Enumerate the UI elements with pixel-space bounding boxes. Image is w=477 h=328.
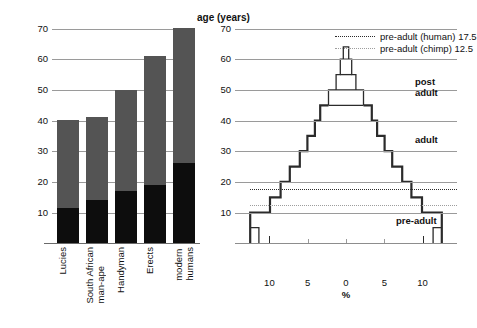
right-panel-title: age (years) — [197, 12, 250, 23]
zone-label-adult: adult — [415, 134, 438, 145]
right-plot-area: 70 60 50 40 30 20 10 — [235, 28, 457, 243]
bar-handyman-preadult-segment — [115, 191, 137, 243]
left-plot-area: 70 60 50 40 30 20 10 — [52, 28, 192, 243]
gridline-60 — [52, 59, 192, 60]
bar-modern-humans — [173, 28, 195, 243]
pyramid-right-thin-outline — [346, 47, 364, 105]
right-ytick-40: 40 — [220, 115, 231, 126]
right-xtick-pos5: 5 — [382, 277, 387, 288]
right-ytick-50: 50 — [220, 84, 231, 95]
legend-label-pre-adult-chimp: pre-adult (chimp) 12.5 — [380, 43, 473, 54]
left-ytick-40: 40 — [37, 115, 48, 126]
xtick-mark-pos10 — [423, 236, 424, 243]
right-ytick-10: 10 — [220, 207, 231, 218]
right-xtick-0: 0 — [343, 277, 348, 288]
left-ytick-60: 60 — [37, 53, 48, 64]
bar-modern-humans-adult-segment — [173, 28, 195, 163]
right-ytick-20: 20 — [220, 176, 231, 187]
left-ytick-20: 20 — [37, 176, 48, 187]
legend: pre-adult (human) 17.5 pre-adult (chimp)… — [335, 30, 477, 54]
reference-line-pre-adult-human — [250, 189, 457, 190]
legend-label-pre-adult-human: pre-adult (human) 17.5 — [380, 31, 477, 42]
xtick-mark-neg10 — [269, 236, 270, 243]
pyramid-right-base-band — [433, 228, 442, 243]
bar-south-african-man-ape-preadult-segment — [86, 200, 108, 243]
rp-gridline-10 — [235, 213, 457, 214]
right-xtick-neg10: 10 — [264, 277, 275, 288]
right-ytick-60: 60 — [220, 53, 231, 64]
zone-label-post-adult-line2: adult — [415, 87, 438, 98]
bar-lucies — [57, 120, 79, 243]
dotted-line-icon — [335, 36, 375, 37]
zone-label-pre-adult: pre-adult — [396, 215, 437, 226]
bar-south-african-man-ape-adult-segment — [86, 117, 108, 200]
right-xaxis-line — [235, 243, 457, 244]
category-label-modern-humans: modern humans — [174, 247, 195, 281]
right-xtick-pos10: 10 — [417, 277, 428, 288]
left-ytick-10: 10 — [37, 207, 48, 218]
pyramid-left-thin-outline — [329, 47, 347, 105]
bar-modern-humans-preadult-segment — [173, 163, 195, 243]
bar-erects — [144, 56, 166, 243]
legend-row-pre-adult-chimp: pre-adult (chimp) 12.5 — [335, 42, 477, 54]
right-panel-age-pyramid: age (years) 70 60 50 40 30 20 10 — [205, 0, 467, 328]
category-label-south-african-man-ape: South African man-ape — [85, 247, 106, 304]
reference-line-pre-adult-chimp — [250, 205, 457, 206]
xtick-mark-0 — [346, 239, 347, 243]
rp-gridline-20 — [235, 182, 457, 183]
right-ytick-70: 70 — [220, 23, 231, 34]
gridline-70 — [52, 29, 192, 30]
left-baseline-axis — [44, 243, 200, 244]
zone-label-post-adult-line1: post — [415, 76, 435, 87]
xtick-mark-pos5 — [384, 239, 385, 243]
bar-handyman — [115, 90, 137, 243]
pyramid-left-thick-outline — [250, 105, 328, 243]
pyramid-left-base-band — [250, 228, 259, 243]
rp-gridline-30 — [235, 151, 457, 152]
bar-erects-adult-segment — [144, 56, 166, 185]
right-xtick-neg5: 5 — [305, 277, 310, 288]
left-ytick-70: 70 — [37, 23, 48, 34]
dotted-line-faint-icon — [335, 48, 375, 49]
bar-handyman-adult-segment — [115, 90, 137, 191]
left-panel-lifespan-bars: 70 60 50 40 30 20 10 — [0, 0, 205, 328]
rp-gridline-60 — [235, 59, 457, 60]
left-ytick-30: 30 — [37, 145, 48, 156]
right-ytick-30: 30 — [220, 145, 231, 156]
xtick-mark-neg5 — [308, 239, 309, 243]
category-label-handyman: Handyman — [116, 247, 127, 293]
bar-lucies-adult-segment — [57, 120, 79, 208]
bar-south-african-man-ape — [86, 117, 108, 243]
bar-erects-preadult-segment — [144, 185, 166, 243]
legend-row-pre-adult-human: pre-adult (human) 17.5 — [335, 30, 477, 42]
bar-lucies-preadult-segment — [57, 208, 79, 243]
category-label-erects: Erects — [145, 247, 156, 274]
right-xaxis-label: % — [342, 289, 350, 300]
rp-gridline-40 — [235, 121, 457, 122]
category-label-lucies: Lucies — [58, 247, 69, 274]
left-ytick-50: 50 — [37, 84, 48, 95]
